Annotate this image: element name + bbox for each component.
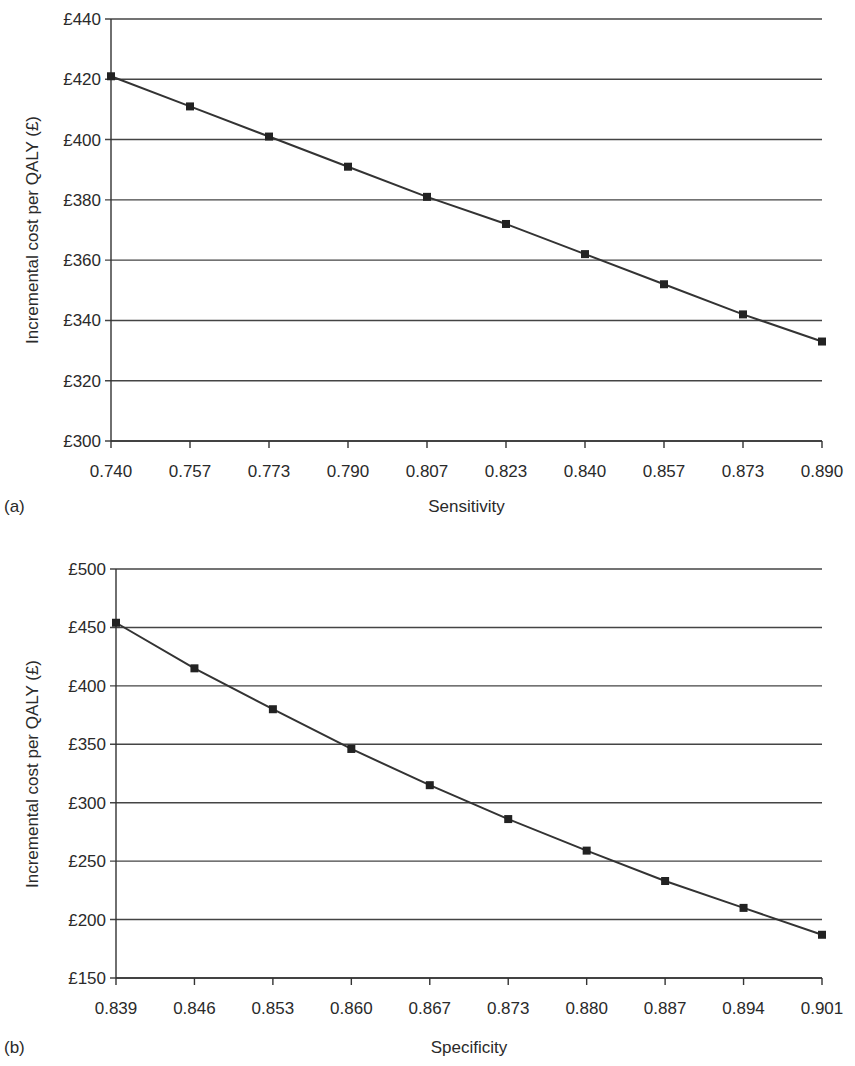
square-marker-icon	[423, 193, 431, 201]
x-tick-label: 0.894	[722, 999, 765, 1018]
y-tick-label: £500	[68, 560, 106, 579]
y-tick-label: £150	[68, 969, 106, 988]
square-marker-icon	[344, 163, 352, 171]
x-tick-label: 0.840	[564, 462, 607, 481]
square-marker-icon	[347, 745, 355, 753]
data-series-line	[116, 623, 822, 935]
square-marker-icon	[502, 220, 510, 228]
y-tick-label: £320	[63, 372, 101, 391]
data-series-line	[111, 76, 822, 341]
square-marker-icon	[190, 664, 198, 672]
y-tick-label: £340	[63, 311, 101, 330]
x-tick-label: 0.853	[252, 999, 295, 1018]
square-marker-icon	[660, 280, 668, 288]
x-tick-label: 0.873	[487, 999, 530, 1018]
square-marker-icon	[739, 310, 747, 318]
x-tick-label: 0.839	[95, 999, 138, 1018]
square-marker-icon	[661, 877, 669, 885]
square-marker-icon	[504, 815, 512, 823]
y-tick-label: £440	[63, 10, 101, 29]
square-marker-icon	[107, 72, 115, 80]
y-tick-label: £200	[68, 911, 106, 930]
x-tick-label: 0.757	[169, 462, 212, 481]
y-axis-title: Incremental cost per QALY (£)	[23, 660, 42, 888]
square-marker-icon	[818, 931, 826, 939]
panel-label: (b)	[4, 1038, 25, 1057]
x-tick-label: 0.740	[90, 462, 133, 481]
square-marker-icon	[818, 338, 826, 346]
y-tick-label: £250	[68, 852, 106, 871]
y-tick-label: £420	[63, 70, 101, 89]
x-tick-label: 0.807	[406, 462, 449, 481]
y-tick-label: £300	[63, 432, 101, 451]
x-tick-label: 0.823	[485, 462, 528, 481]
x-tick-label: 0.773	[248, 462, 291, 481]
charts-figure: £300£320£340£360£380£400£420£4400.7400.7…	[0, 0, 855, 1066]
square-marker-icon	[186, 102, 194, 110]
square-marker-icon	[581, 250, 589, 258]
square-marker-icon	[269, 705, 277, 713]
x-tick-label: 0.887	[644, 999, 687, 1018]
chart-a-sensitivity: £300£320£340£360£380£400£420£4400.7400.7…	[4, 10, 843, 516]
square-marker-icon	[112, 619, 120, 627]
square-marker-icon	[583, 847, 591, 855]
square-marker-icon	[740, 904, 748, 912]
x-tick-label: 0.890	[801, 462, 844, 481]
x-tick-label: 0.867	[409, 999, 452, 1018]
x-tick-label: 0.860	[330, 999, 373, 1018]
x-tick-label: 0.846	[173, 999, 216, 1018]
square-marker-icon	[426, 781, 434, 789]
x-tick-label: 0.873	[722, 462, 765, 481]
y-tick-label: £350	[68, 735, 106, 754]
y-tick-label: £380	[63, 191, 101, 210]
panel-label: (a)	[4, 497, 25, 516]
square-marker-icon	[265, 133, 273, 141]
x-tick-label: 0.790	[327, 462, 370, 481]
y-tick-label: £300	[68, 794, 106, 813]
y-tick-label: £400	[63, 131, 101, 150]
y-axis-title: Incremental cost per QALY (£)	[23, 116, 42, 344]
x-axis-title: Specificity	[431, 1038, 508, 1057]
chart-b-specificity: £150£200£250£300£350£400£450£5000.8390.8…	[4, 560, 843, 1057]
x-axis-title: Sensitivity	[428, 497, 505, 516]
x-tick-label: 0.880	[565, 999, 608, 1018]
x-tick-label: 0.857	[643, 462, 686, 481]
y-tick-label: £400	[68, 677, 106, 696]
y-tick-label: £360	[63, 251, 101, 270]
y-tick-label: £450	[68, 618, 106, 637]
x-tick-label: 0.901	[801, 999, 844, 1018]
